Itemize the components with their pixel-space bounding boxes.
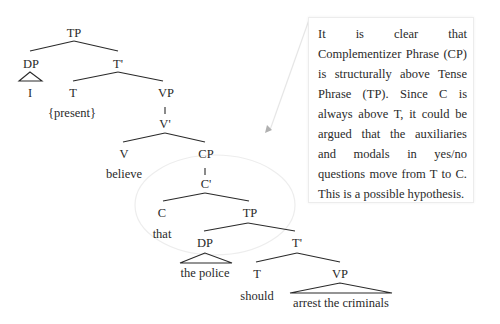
node-vp-embedded: VP: [332, 267, 348, 281]
node-c-bar: C': [201, 177, 212, 191]
leaf-arrest-the-criminals: arrest the criminals: [293, 296, 389, 310]
node-t: T: [69, 86, 77, 100]
node-t-bar-embedded: T': [292, 236, 302, 250]
leaf-present: {present}: [48, 106, 96, 120]
leaf-that: that: [153, 227, 172, 241]
callout-text: It is clear that Complementizer Phrase (…: [318, 27, 467, 201]
annotation-callout: It is clear that Complementizer Phrase (…: [308, 17, 474, 203]
leaf-should: should: [240, 289, 273, 303]
node-c: C: [158, 206, 166, 220]
leaf-believe: believe: [106, 167, 142, 181]
node-vp: VP: [158, 86, 174, 100]
node-v: V: [119, 147, 128, 161]
node-dp: DP: [23, 57, 39, 71]
leaf-the-police: the police: [181, 266, 230, 280]
node-dp-embedded: DP: [197, 236, 213, 250]
node-t-bar: T': [113, 57, 123, 71]
node-v-bar: V': [159, 117, 170, 131]
node-tp-embedded: TP: [243, 206, 258, 220]
pointer-line: [270, 17, 310, 130]
node-t-embedded: T: [253, 267, 261, 281]
node-cp: CP: [198, 147, 213, 161]
node-tp-root: TP: [67, 26, 82, 40]
leaf-i: I: [28, 86, 32, 100]
